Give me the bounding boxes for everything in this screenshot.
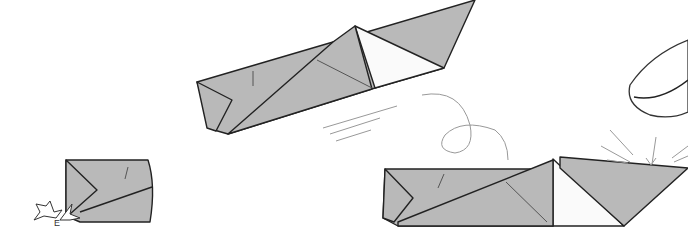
origami-diagram: E — [0, 0, 688, 228]
arrow-label: E — [54, 218, 60, 228]
step-c-model — [383, 157, 688, 226]
impact-lines-icon — [601, 130, 688, 165]
finger-icon — [629, 40, 688, 117]
step-b-model — [197, 0, 475, 134]
step-a-model — [66, 160, 153, 222]
motion-lines-icon — [323, 94, 508, 160]
